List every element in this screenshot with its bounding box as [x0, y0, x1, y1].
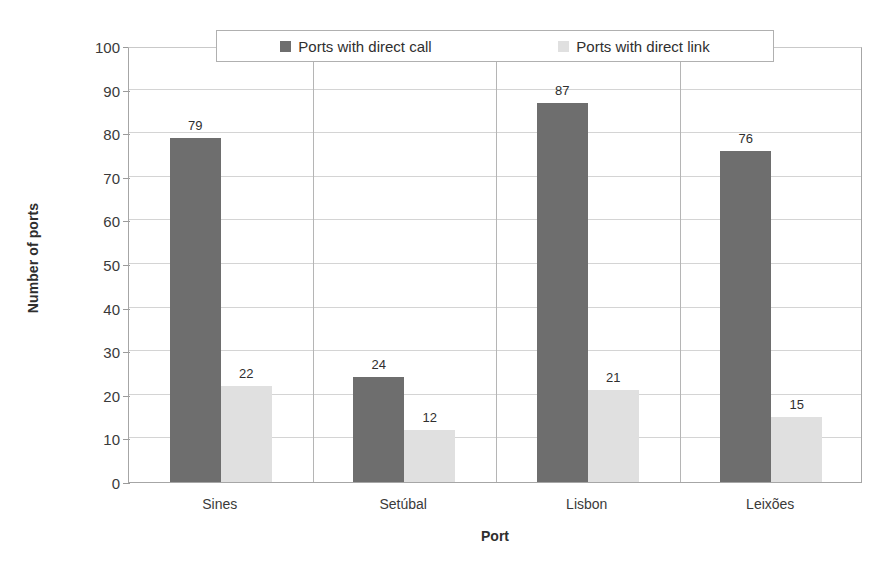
bar-value-label: 15	[771, 398, 822, 411]
y-axis-tick-label: 70	[74, 170, 120, 185]
legend-entry: Ports with direct call	[280, 38, 431, 55]
y-axis-tick-label: 40	[74, 301, 120, 316]
y-axis-tick-label: 90	[74, 83, 120, 98]
y-axis-tick-label: 80	[74, 127, 120, 142]
bar	[404, 430, 455, 482]
y-axis-tick-label: 30	[74, 345, 120, 360]
x-axis-tick-label: Setúbal	[312, 496, 496, 512]
bar-value-label: 76	[720, 132, 771, 145]
bar-value-label: 21	[588, 371, 639, 384]
y-axis-tick-label: 60	[74, 214, 120, 229]
bar	[353, 377, 404, 482]
y-axis-tick-label: 20	[74, 388, 120, 403]
x-axis-tick-label: Lisbon	[495, 496, 679, 512]
bar-value-label: 22	[221, 367, 272, 380]
category-divider	[496, 48, 497, 482]
bar	[588, 390, 639, 482]
chart-legend: Ports with direct callPorts with direct …	[216, 30, 774, 62]
bar-chart: Number of ports 1009080706050403020100 7…	[0, 0, 892, 577]
bar	[170, 138, 221, 482]
category-divider	[313, 48, 314, 482]
gridline	[129, 89, 861, 90]
bar	[771, 417, 822, 482]
bar-value-label: 79	[170, 119, 221, 132]
x-axis-title: Port	[128, 528, 862, 544]
y-axis-tick-label: 10	[74, 432, 120, 447]
bar	[537, 103, 588, 482]
bar	[720, 151, 771, 482]
legend-entry: Ports with direct link	[558, 38, 709, 55]
y-axis-tick-label: 0	[74, 476, 120, 491]
plot-area: 7922241287217615	[128, 47, 862, 483]
bar-value-label: 24	[353, 358, 404, 371]
bar-value-label: 12	[404, 411, 455, 424]
category-divider	[680, 48, 681, 482]
x-axis-tick-label: Leixões	[679, 496, 863, 512]
y-axis-title: Number of ports	[25, 178, 41, 338]
x-axis-tick-label: Sines	[128, 496, 312, 512]
legend-label: Ports with direct link	[576, 38, 709, 55]
dark-gray-swatch-icon	[280, 41, 291, 52]
y-axis-ticks: 1009080706050403020100	[60, 47, 120, 483]
bar	[221, 386, 272, 482]
legend-label: Ports with direct call	[298, 38, 431, 55]
y-axis-tick-label: 50	[74, 258, 120, 273]
y-axis-tick-label: 100	[74, 40, 120, 55]
y-axis-tick-mark	[123, 483, 130, 484]
bar-value-label: 87	[537, 84, 588, 97]
light-gray-swatch-icon	[558, 41, 569, 52]
